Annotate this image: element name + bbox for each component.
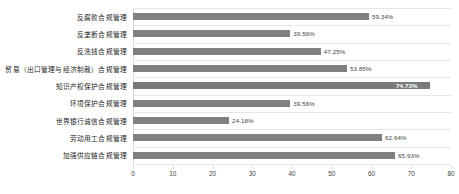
bar-value-label: 59.34% [372,13,394,20]
bar-value-label: 74.73% [396,82,418,89]
grid-line [133,164,451,165]
bar-row[interactable]: 47.25% [133,43,451,60]
category-label: 贸易（出口管理与经济制裁）合规管理 [5,60,127,77]
bar[interactable] [133,48,321,55]
bar[interactable] [133,100,290,107]
tick-mark [213,166,214,169]
plot-area: 59.34%39.56%47.25%53.85%74.73%39.56%24.1… [133,8,451,164]
tick-mark [292,166,293,169]
category-label: 反洗钱合规管理 [77,43,127,60]
bar-value-label: 47.25% [324,48,346,55]
category-label: 反垄断合规管理 [77,25,127,42]
bar-value-label: 65.93% [398,152,420,159]
tick-mark [252,166,253,169]
bar-row[interactable]: 39.56% [133,95,451,112]
x-tick-label: 20 [209,170,216,177]
x-tick-label: 40 [288,170,295,177]
x-tick-label: 60 [368,170,375,177]
bar-value-label: 24.18% [232,117,254,124]
bar-row[interactable]: 24.18% [133,112,451,129]
category-label: 世界银行诚信合规管理 [56,112,128,129]
bar-row[interactable]: 62.64% [133,129,451,146]
tick-mark [173,166,174,169]
tick-mark [133,166,134,169]
tick-mark [332,166,333,169]
tick-mark [372,166,373,169]
x-axis-ticks: 01020304050607080 [133,166,451,180]
bar-value-label: 62.64% [385,134,407,141]
category-label: 知识产权保护合规管理 [56,77,128,94]
category-labels: 反腐败合规管理反垄断合规管理反洗钱合规管理贸易（出口管理与经济制裁）合规管理知识… [0,8,130,164]
bar-value-label: 53.85% [350,65,372,72]
bar[interactable] [133,30,290,37]
bar-value-label: 39.56% [293,30,315,37]
category-label: 反腐败合规管理 [77,8,127,25]
tick-mark [411,166,412,169]
bar-row[interactable]: 53.85% [133,60,451,77]
x-tick-label: 70 [408,170,415,177]
bar[interactable] [133,13,369,20]
bar[interactable] [133,82,430,89]
bar[interactable] [133,152,395,159]
x-tick-label: 80 [447,170,454,177]
tick-mark [451,166,452,169]
bar[interactable] [133,65,347,72]
x-tick-label: 0 [131,170,135,177]
x-tick-label: 50 [328,170,335,177]
bar-row[interactable]: 65.93% [133,147,451,164]
bar[interactable] [133,117,229,124]
category-label: 劳动用工合规管理 [70,129,127,146]
x-tick-label: 30 [249,170,256,177]
category-label: 环境保护合规管理 [70,95,127,112]
category-label: 加强供应链合规管理 [63,147,127,164]
bar-row[interactable]: 39.56% [133,25,451,42]
bar-row[interactable]: 59.34% [133,8,451,25]
bar[interactable] [133,134,382,141]
bar-value-label: 39.56% [293,100,315,107]
horizontal-bar-chart: 反腐败合规管理反垄断合规管理反洗钱合规管理贸易（出口管理与经济制裁）合规管理知识… [0,0,459,194]
bar-row[interactable]: 74.73% [133,77,451,94]
x-tick-label: 10 [169,170,176,177]
